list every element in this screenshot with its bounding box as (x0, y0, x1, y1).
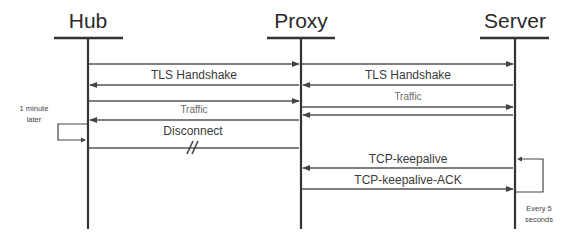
traffic-left-label: Traffic (180, 104, 207, 115)
server-loop-arrowhead (517, 157, 522, 162)
hub-loop-note-line1: 1 minute (20, 104, 49, 113)
hub-self-loop: 1 minute later (20, 104, 87, 143)
sequence-diagram: Hub Proxy Server TLS Handshake TLS Hands… (0, 0, 582, 241)
actor-proxy-label: Proxy (274, 9, 328, 32)
traffic-right-label: Traffic (394, 91, 421, 102)
keepalive-label: TCP-keepalive (369, 152, 448, 166)
tls-handshake-right-label: TLS Handshake (365, 68, 451, 82)
hub-loop-note-line2: later (27, 115, 42, 124)
server-self-loop: Every 5 seconds (516, 157, 553, 225)
server-loop-note-line2: seconds (525, 215, 553, 224)
actor-server: Server (480, 9, 549, 229)
server-loop-arrow (516, 159, 543, 192)
actor-server-label: Server (484, 9, 546, 32)
actor-hub: Hub (54, 9, 123, 229)
actor-hub-label: Hub (69, 9, 108, 32)
hub-loop-arrowhead (81, 138, 86, 143)
disconnect-label: Disconnect (163, 124, 223, 138)
keepalive-ack-label: TCP-keepalive-ACK (354, 173, 461, 187)
tls-handshake-left-label: TLS Handshake (151, 68, 237, 82)
server-loop-note-line1: Every 5 (526, 204, 551, 213)
hub-loop-arrow (58, 124, 87, 140)
actor-proxy: Proxy (267, 9, 335, 229)
